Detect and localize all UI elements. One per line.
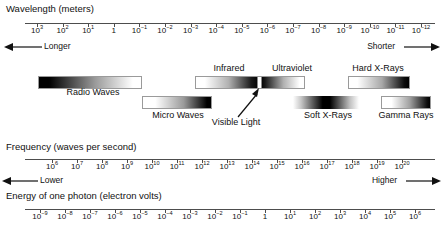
frequency-lower-label: Lower xyxy=(40,175,63,185)
band-label-micro-waves: Micro Waves xyxy=(152,110,204,120)
higher-arrow-icon xyxy=(406,176,441,186)
wavelength-tick-label-11: 10−8 xyxy=(311,26,326,35)
frequency-tick-label-0: 106 xyxy=(46,162,58,171)
energy-axis-heading: Energy of one photon (electron volts) xyxy=(6,190,162,201)
frequency-tick-label-11: 1017 xyxy=(319,162,334,171)
frequency-tick-label-2: 108 xyxy=(96,162,108,171)
wavelength-tick-label-10: 10−7 xyxy=(285,26,300,35)
band-hard-xrays xyxy=(348,76,410,89)
frequency-tick-label-5: 1011 xyxy=(170,162,185,171)
frequency-axis-heading: Frequency (waves per second) xyxy=(6,141,136,152)
shorter-arrow-icon xyxy=(404,42,440,52)
energy-tick-label-0: 10−9 xyxy=(32,212,47,221)
energy-tick-label-1: 10−8 xyxy=(57,212,72,221)
wavelength-tick-label-8: 10−5 xyxy=(234,26,249,35)
wavelength-tick-label-4: 10−1 xyxy=(132,26,147,35)
energy-tick-label-9: 1 xyxy=(263,212,267,221)
frequency-tick-label-6: 1012 xyxy=(194,162,209,171)
frequency-tick-label-9: 1015 xyxy=(269,162,284,171)
energy-tick-label-12: 103 xyxy=(334,212,346,221)
band-label-hard-xrays: Hard X-Rays xyxy=(352,63,404,73)
energy-tick-label-4: 10−5 xyxy=(132,212,147,221)
wavelength-tick-label-1: 102 xyxy=(57,26,69,35)
band-soft-xrays xyxy=(293,96,359,109)
energy-tick-label-2: 10−7 xyxy=(82,212,97,221)
frequency-tick-label-7: 1013 xyxy=(219,162,234,171)
wavelength-longer-label: Longer xyxy=(44,41,70,51)
electromagnetic-spectrum-diagram: Wavelength (meters) 103102101110−110−210… xyxy=(0,0,443,232)
wavelength-tick-label-9: 10−6 xyxy=(260,26,275,35)
wavelength-tick-label-7: 10−4 xyxy=(209,26,224,35)
band-ultraviolet xyxy=(260,76,305,89)
longer-arrow-icon xyxy=(4,42,44,52)
wavelength-tick-label-6: 10−3 xyxy=(183,26,198,35)
energy-tick-label-8: 10−1 xyxy=(232,212,247,221)
wavelength-tick-label-15: 10−12 xyxy=(412,26,430,35)
wavelength-tick-label-13: 10−10 xyxy=(361,26,379,35)
frequency-tick-label-1: 107 xyxy=(71,162,83,171)
wavelength-tick-label-2: 101 xyxy=(82,26,94,35)
frequency-tick-label-12: 1018 xyxy=(344,162,359,171)
energy-tick-label-7: 10−2 xyxy=(207,212,222,221)
energy-tick-label-13: 104 xyxy=(359,212,371,221)
band-label-gamma-rays: Gamma Rays xyxy=(378,110,433,120)
wavelength-tick-label-14: 10−11 xyxy=(386,26,404,35)
band-micro-waves xyxy=(142,96,212,109)
frequency-tick-label-13: 1019 xyxy=(369,162,384,171)
frequency-tick-label-4: 1010 xyxy=(144,162,159,171)
frequency-higher-label: Higher xyxy=(372,175,397,185)
lower-arrow-icon xyxy=(2,176,40,186)
frequency-tick-label-8: 1014 xyxy=(244,162,259,171)
energy-axis-line xyxy=(25,209,435,210)
energy-tick-label-6: 10−3 xyxy=(182,212,197,221)
wavelength-axis-heading: Wavelength (meters) xyxy=(6,3,94,14)
wavelength-shorter-label: Shorter xyxy=(367,41,395,51)
energy-tick-label-10: 101 xyxy=(284,212,296,221)
visible-light-pointer-icon xyxy=(236,88,262,118)
band-gamma-rays xyxy=(381,96,431,109)
frequency-tick-label-3: 109 xyxy=(121,162,133,171)
wavelength-tick-label-0: 103 xyxy=(31,26,43,35)
band-label-visible-light: Visible Light xyxy=(212,117,260,127)
wavelength-tick-label-12: 10−9 xyxy=(337,26,352,35)
band-label-soft-xrays: Soft X-Rays xyxy=(304,110,352,120)
band-label-ultraviolet: Ultraviolet xyxy=(272,63,312,73)
energy-tick-label-11: 102 xyxy=(309,212,321,221)
energy-tick-label-14: 105 xyxy=(384,212,396,221)
energy-tick-label-15: 106 xyxy=(409,212,421,221)
band-label-radio-waves: Radio Waves xyxy=(66,87,119,97)
frequency-tick-label-10: 1016 xyxy=(294,162,309,171)
wavelength-tick-label-5: 10−2 xyxy=(157,26,172,35)
energy-tick-label-5: 10−4 xyxy=(157,212,172,221)
visible-light-notch xyxy=(257,77,262,88)
energy-tick-label-3: 10−6 xyxy=(107,212,122,221)
wavelength-tick-label-3: 1 xyxy=(112,26,116,35)
band-label-infrared: Infrared xyxy=(213,63,244,73)
frequency-tick-label-14: 1020 xyxy=(394,162,409,171)
